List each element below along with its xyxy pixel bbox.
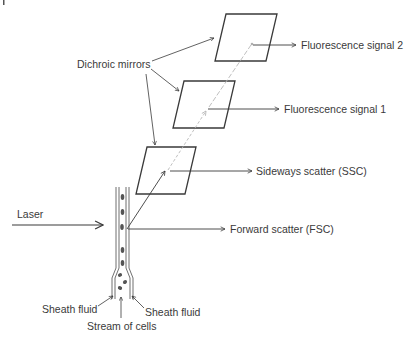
pointer-sheath-right: [132, 296, 144, 308]
light-beam: [127, 43, 253, 229]
cell: [121, 209, 125, 215]
pointer-sheath-left: [98, 296, 113, 306]
bottom-pointers: [98, 296, 144, 318]
beam-to-mirror-top: [209, 45, 251, 107]
beam-end-dot: [251, 43, 254, 46]
label-forward-scatter: Forward scatter (FSC): [230, 223, 334, 235]
signal-arrows: [128, 45, 296, 229]
label-stream-of-cells: Stream of cells: [87, 320, 156, 332]
label-fluorescence-signal-1: Fluorescence signal 1: [284, 103, 386, 115]
cell: [121, 194, 125, 200]
mirror-bottom: [136, 147, 196, 194]
flow-cytometer-diagram: Dichroic mirrors Fluorescence signal 2 F…: [0, 0, 415, 344]
cell: [117, 272, 123, 277]
label-fluorescence-signal-2: Fluorescence signal 2: [301, 39, 403, 51]
cell: [117, 286, 122, 291]
cell: [120, 224, 124, 230]
corner-mark: [3, 0, 5, 5]
pointer-to-top-mirror: [152, 38, 214, 61]
mirror-middle: [173, 81, 235, 128]
cell: [122, 279, 128, 285]
label-laser: Laser: [17, 208, 44, 220]
pointer-to-bottom-mirror: [146, 74, 155, 145]
dichroic-pointers: [146, 38, 214, 145]
label-dichroic-mirrors: Dichroic mirrors: [77, 58, 151, 70]
label-sideways-scatter: Sideways scatter (SSC): [256, 165, 367, 177]
cell: [121, 260, 125, 266]
beam-to-mirror-middle: [168, 111, 206, 170]
pointer-to-middle-mirror: [151, 69, 179, 91]
flow-cell: [112, 187, 133, 299]
beam-to-mirror-bottom: [127, 171, 165, 229]
cell: [121, 247, 125, 253]
mirror-top: [215, 14, 277, 61]
label-sheath-fluid-right: Sheath fluid: [145, 306, 201, 318]
label-sheath-fluid-left: Sheath fluid: [42, 303, 98, 315]
